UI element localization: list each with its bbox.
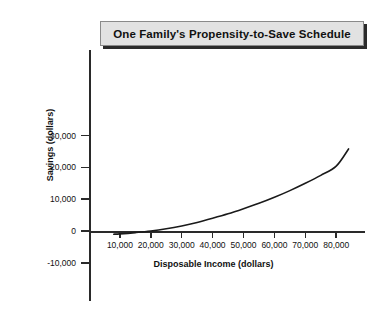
x-axis-tick xyxy=(335,231,337,238)
chart-title: One Family's Propensity-to-Save Schedule xyxy=(113,28,350,40)
x-axis-tick-label: 70,000 xyxy=(292,240,318,250)
y-axis-tick xyxy=(81,230,89,232)
y-axis-tick xyxy=(81,167,89,169)
x-axis-tick xyxy=(243,231,245,238)
x-axis-tick xyxy=(274,231,276,238)
y-axis-tick-label: 0 xyxy=(71,226,76,236)
y-axis-tick-label: 10,000 xyxy=(50,194,76,204)
x-axis-tick-label: 60,000 xyxy=(261,240,287,250)
x-axis-tick-label: 10,000 xyxy=(107,240,133,250)
x-axis-tick xyxy=(150,231,152,238)
chart-container: One Family's Propensity-to-Save Schedule… xyxy=(0,0,379,323)
savings-curve xyxy=(114,149,349,234)
x-axis-tick xyxy=(119,231,121,238)
x-axis-title-text: Disposable Income (dollars) xyxy=(153,259,273,269)
x-axis-tick xyxy=(212,231,214,238)
x-axis-tick-label: 30,000 xyxy=(169,240,195,250)
x-axis-title: Disposable Income (dollars) xyxy=(0,259,379,269)
x-axis-tick-label: 40,000 xyxy=(200,240,226,250)
chart-title-plaque: One Family's Propensity-to-Save Schedule xyxy=(100,21,364,46)
x-axis-tick-label: 80,000 xyxy=(323,240,349,250)
x-axis-tick-label: 50,000 xyxy=(231,240,257,250)
x-axis-tick-label: 20,000 xyxy=(138,240,164,250)
x-axis-tick xyxy=(305,231,307,238)
x-axis-tick xyxy=(181,231,183,238)
x-axis-line xyxy=(89,231,365,233)
y-axis-tick xyxy=(81,198,89,200)
y-axis-title: Savings (dollars) xyxy=(45,109,55,182)
y-axis-tick xyxy=(81,135,89,137)
